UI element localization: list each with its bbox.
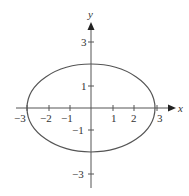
y-axis-label: y — [87, 8, 93, 20]
y-tick-label: −3 — [72, 168, 84, 180]
x-axis-label: x — [177, 102, 183, 114]
x-tick-label: −3 — [14, 112, 26, 124]
x-tick-label: 1 — [111, 112, 117, 124]
ellipse-chart: x y −3 −2 −1 1 2 3 3 1 −1 −3 — [0, 0, 189, 196]
x-axis-arrow-icon — [168, 105, 176, 112]
y-tick-label: 3 — [81, 36, 87, 48]
x-tick-label: −1 — [61, 112, 73, 124]
x-tick-label: 3 — [157, 112, 163, 124]
y-axis-arrow-icon — [88, 22, 95, 30]
y-tick-label: −1 — [72, 124, 84, 136]
x-tick-label: 2 — [131, 112, 137, 124]
x-tick-label: −2 — [40, 112, 52, 124]
y-tick-label: 1 — [81, 80, 87, 92]
